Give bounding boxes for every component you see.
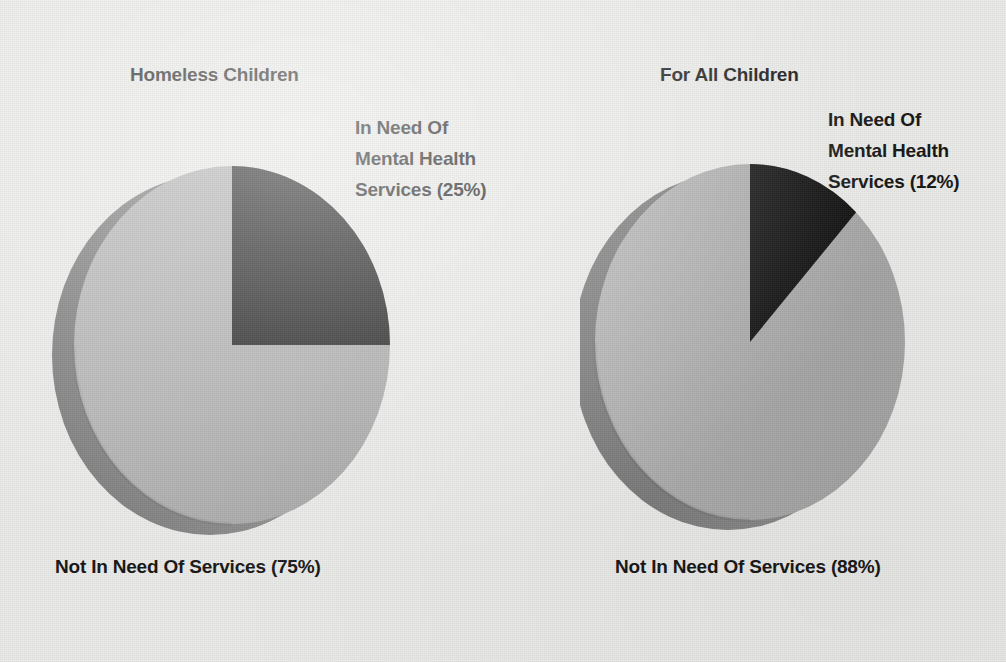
- callout-line-2: Mental Health: [828, 135, 959, 166]
- callout-line-3: Services (12%): [828, 166, 959, 197]
- callout-line-1: In Need Of: [355, 112, 486, 143]
- chart-panel-homeless-children: Homeless Children: [0, 0, 520, 662]
- callout-line-2: Mental Health: [355, 143, 486, 174]
- callout-line-3: Services (25%): [355, 174, 486, 205]
- label-not-in-need-right: Not In Need Of Services (88%): [615, 556, 881, 578]
- label-not-in-need-left: Not In Need Of Services (75%): [55, 556, 321, 578]
- chart-title-left: Homeless Children: [130, 64, 299, 86]
- chart-title-right: For All Children: [660, 64, 799, 86]
- callout-in-need-left: In Need Of Mental Health Services (25%): [355, 112, 486, 205]
- callout-in-need-right: In Need Of Mental Health Services (12%): [828, 104, 959, 197]
- chart-panel-all-children: For All Children: [520, 0, 1006, 662]
- callout-line-1: In Need Of: [828, 104, 959, 135]
- figure-canvas: Homeless Children: [0, 0, 1006, 662]
